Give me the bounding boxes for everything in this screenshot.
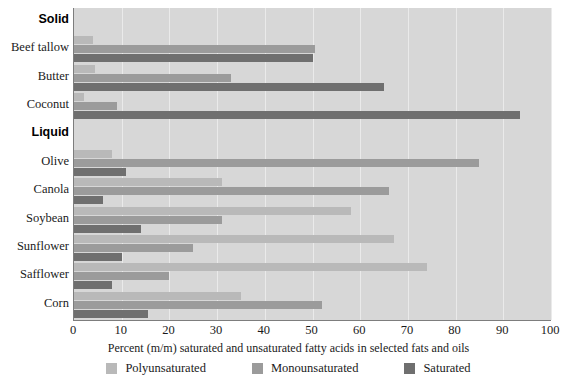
y-category-label-butter: Butter <box>1 69 69 84</box>
legend-swatch-monounsaturated <box>252 363 263 374</box>
legend-item-saturated[interactable]: Saturated <box>404 361 470 376</box>
bar-canola-saturated <box>74 196 103 204</box>
legend-swatch-saturated <box>404 363 415 374</box>
bar-coconut-polyunsaturated <box>74 93 84 101</box>
y-axis-labels: SolidBeef tallowButterCoconutLiquidOlive… <box>0 8 69 320</box>
x-tick-label-20: 20 <box>162 323 175 338</box>
bar-sunflower-monounsaturated <box>74 244 193 252</box>
x-tick-label-0: 0 <box>70 323 76 338</box>
y-category-label-safflower: Safflower <box>1 267 69 282</box>
bar-olive-polyunsaturated <box>74 150 112 158</box>
bar-group-corn <box>74 291 551 321</box>
bar-group-safflower <box>74 262 551 292</box>
bar-soybean-polyunsaturated <box>74 207 351 215</box>
bar-soybean-monounsaturated <box>74 216 222 224</box>
bar-butter-polyunsaturated <box>74 65 95 73</box>
x-tick-label-30: 30 <box>210 323 223 338</box>
y-category-label-sunflower: Sunflower <box>1 239 69 254</box>
x-tick-label-10: 10 <box>114 323 127 338</box>
bar-olive-monounsaturated <box>74 159 479 167</box>
bar-group-butter <box>74 64 551 94</box>
bar-canola-monounsaturated <box>74 187 389 195</box>
x-tick-label-60: 60 <box>353 323 366 338</box>
plot-area <box>73 8 551 321</box>
legend-label-polyunsaturated: Polyunsaturated <box>125 361 206 376</box>
x-tick-label-50: 50 <box>305 323 318 338</box>
x-axis-ticks: 0102030405060708090100 <box>73 323 550 339</box>
bar-beef-tallow-monounsaturated <box>74 45 315 53</box>
y-group-label-solid: Solid <box>1 12 69 26</box>
bar-group-canola <box>74 177 551 207</box>
bar-group-sunflower <box>74 234 551 264</box>
bar-soybean-saturated <box>74 225 141 233</box>
bar-safflower-polyunsaturated <box>74 263 427 271</box>
x-tick-label-70: 70 <box>401 323 414 338</box>
bar-olive-saturated <box>74 168 126 176</box>
bar-beef-tallow-saturated <box>74 54 313 62</box>
legend-label-monounsaturated: Monounsaturated <box>271 361 358 376</box>
bar-butter-monounsaturated <box>74 74 231 82</box>
x-tick-label-90: 90 <box>496 323 509 338</box>
bar-group-olive <box>74 149 551 179</box>
y-category-label-olive: Olive <box>1 154 69 169</box>
y-category-label-corn: Corn <box>1 296 69 311</box>
bar-group-soybean <box>74 206 551 236</box>
y-category-label-beef-tallow: Beef tallow <box>1 40 69 55</box>
bar-safflower-saturated <box>74 281 112 289</box>
bar-sunflower-polyunsaturated <box>74 235 394 243</box>
bar-coconut-monounsaturated <box>74 102 117 110</box>
bar-corn-monounsaturated <box>74 301 322 309</box>
bar-group-coconut <box>74 92 551 122</box>
x-tick-label-80: 80 <box>448 323 461 338</box>
bar-coconut-saturated <box>74 111 520 119</box>
y-category-label-soybean: Soybean <box>1 211 69 226</box>
legend-swatch-polyunsaturated <box>106 363 117 374</box>
bar-sunflower-saturated <box>74 253 122 261</box>
x-tick-label-40: 40 <box>258 323 271 338</box>
legend-item-monounsaturated[interactable]: Monounsaturated <box>252 361 358 376</box>
bar-butter-saturated <box>74 83 384 91</box>
fatty-acid-bar-chart: SolidBeef tallowButterCoconutLiquidOlive… <box>0 0 577 386</box>
gridline-100 <box>551 8 552 320</box>
x-axis-title: Percent (m/m) saturated and unsaturated … <box>0 341 577 356</box>
chart-legend: PolyunsaturatedMonounsaturatedSaturated <box>0 361 577 376</box>
bar-group-beef-tallow <box>74 35 551 65</box>
bar-corn-saturated <box>74 310 148 318</box>
bar-beef-tallow-polyunsaturated <box>74 36 93 44</box>
bar-canola-polyunsaturated <box>74 178 222 186</box>
y-category-label-coconut: Coconut <box>1 97 69 112</box>
legend-label-saturated: Saturated <box>423 361 470 376</box>
bar-corn-polyunsaturated <box>74 292 241 300</box>
x-tick-label-100: 100 <box>541 323 560 338</box>
y-category-label-canola: Canola <box>1 182 69 197</box>
y-group-label-liquid: Liquid <box>1 125 69 139</box>
bar-safflower-monounsaturated <box>74 272 169 280</box>
legend-item-polyunsaturated[interactable]: Polyunsaturated <box>106 361 206 376</box>
